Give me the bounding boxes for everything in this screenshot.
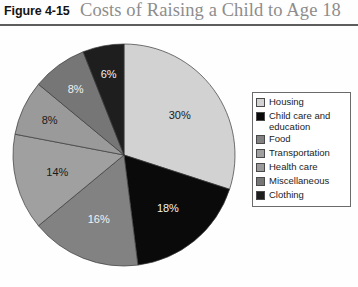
legend-item[interactable]: Health care	[256, 161, 348, 174]
legend-item-label: Clothing	[269, 189, 304, 200]
legend-item-label: Food	[269, 133, 291, 144]
pie-slice-group	[13, 44, 235, 266]
pie-chart: 30%18%16%14%8%8%6%	[0, 28, 250, 287]
legend-swatch-icon	[256, 98, 265, 107]
legend-item-label: Child care and education	[269, 110, 348, 132]
legend-swatch-icon	[256, 163, 265, 172]
legend-item-label: Miscellaneous	[269, 175, 329, 186]
pie-slice-value-label: 8%	[42, 114, 58, 126]
figure-page: Figure 4-15 Costs of Raising a Child to …	[0, 0, 358, 287]
legend-item[interactable]: Housing	[256, 96, 348, 109]
pie-slice-value-label: 8%	[68, 83, 84, 95]
legend-item-label: Health care	[269, 161, 318, 172]
chart-legend: HousingChild care and educationFoodTrans…	[252, 92, 351, 207]
legend-swatch-icon	[256, 149, 265, 158]
pie-slice-value-label: 18%	[157, 202, 179, 214]
pie-chart-svg: 30%18%16%14%8%8%6%	[0, 28, 250, 287]
legend-swatch-icon	[256, 112, 265, 121]
legend-item[interactable]: Food	[256, 133, 348, 146]
figure-number: Figure 4-15	[4, 4, 70, 18]
legend-item[interactable]: Transportation	[256, 147, 348, 160]
legend-item[interactable]: Clothing	[256, 189, 348, 202]
pie-slice-value-label: 16%	[88, 213, 110, 225]
legend-swatch-icon	[256, 191, 265, 200]
figure-title: Costs of Raising a Child to Age 18	[80, 0, 341, 21]
legend-item[interactable]: Miscellaneous	[256, 175, 348, 188]
legend-swatch-icon	[256, 177, 265, 186]
figure-header: Figure 4-15 Costs of Raising a Child to …	[0, 0, 358, 28]
legend-item[interactable]: Child care and education	[256, 110, 348, 132]
header-divider	[0, 24, 358, 26]
pie-slice-value-label: 14%	[46, 166, 68, 178]
legend-rows: HousingChild care and educationFoodTrans…	[256, 96, 348, 202]
pie-slice-value-label: 6%	[101, 68, 117, 80]
legend-swatch-icon	[256, 135, 265, 144]
pie-slice-value-label: 30%	[169, 109, 191, 121]
legend-item-label: Housing	[269, 96, 304, 107]
legend-item-label: Transportation	[269, 147, 330, 158]
